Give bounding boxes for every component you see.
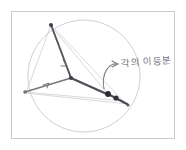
point-circle-edge [126,103,129,106]
sketch-canvas: 각의 이등분 [0,0,186,150]
geometry-sketch-svg [0,0,186,150]
point-top-vertex [49,23,53,27]
point-arc-midpoint [105,91,111,97]
point-incenter [69,76,73,80]
point-right-vertex [113,95,118,100]
sketch-frame [12,12,175,139]
point-left-vertex [23,90,27,94]
